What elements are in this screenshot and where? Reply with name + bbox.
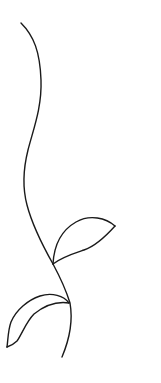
plant-drawing-icon <box>0 0 161 383</box>
plant-illustration: line drawing of a plant sprig with one s… <box>0 0 161 383</box>
